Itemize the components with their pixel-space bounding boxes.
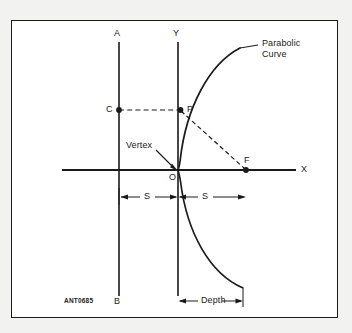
point-c-label: C <box>106 104 113 115</box>
point-c-dot <box>116 107 122 113</box>
parabolic-curve-label: Parabolic Curve <box>262 38 300 60</box>
directrix-bottom-label: B <box>114 296 120 307</box>
parabolic-curve <box>178 48 243 288</box>
s-left-arrowhead-start <box>121 194 129 199</box>
curve-label-leader <box>240 45 258 48</box>
s-left-arrowhead-end <box>170 194 178 199</box>
origin-label: O <box>169 172 176 183</box>
dashed-line-p-to-f <box>181 111 245 169</box>
parabolic-curve-label-line2: Curve <box>262 49 300 60</box>
depth-label: Depth <box>201 295 226 306</box>
vertex-label: Vertex <box>126 140 152 151</box>
x-axis-label: X <box>301 164 307 175</box>
point-f-label: F <box>244 155 250 166</box>
point-f-dot <box>243 167 249 173</box>
figure-code-label: ANT0685 <box>64 297 93 305</box>
s-right-arrowhead-end <box>238 194 246 199</box>
y-axis-label: Y <box>173 28 179 39</box>
parabolic-curve-label-line1: Parabolic <box>262 38 300 49</box>
depth-arrowhead-start <box>179 298 187 303</box>
depth-arrowhead-end <box>236 298 244 303</box>
s-right-label: S <box>202 191 208 202</box>
s-left-label: S <box>144 191 150 202</box>
figure-root: A B Y X C P F O Vertex Parabolic Curve S… <box>0 0 352 333</box>
point-p-label: P <box>187 104 193 115</box>
point-p-dot <box>178 107 184 113</box>
directrix-top-label: A <box>114 28 120 39</box>
